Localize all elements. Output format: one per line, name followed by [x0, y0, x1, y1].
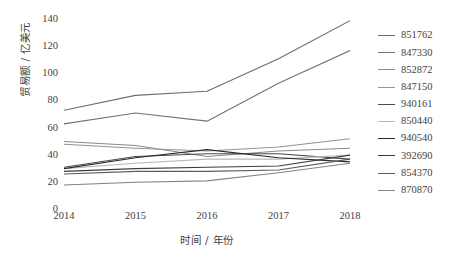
- legend-item[interactable]: 852872: [378, 61, 461, 78]
- legend-item[interactable]: 847150: [378, 79, 461, 96]
- legend-color-swatch: [378, 121, 395, 122]
- legend-item[interactable]: 940540: [378, 130, 461, 147]
- legend-color-swatch: [378, 155, 395, 156]
- y-axis-tick-label: 80: [48, 94, 59, 105]
- series-line: [64, 163, 350, 185]
- y-axis-tick-label: 60: [48, 121, 59, 132]
- y-axis-tick-labels: 020406080100120140: [26, 18, 58, 208]
- legend-item[interactable]: 851762: [378, 27, 461, 44]
- legend-color-swatch: [378, 35, 395, 36]
- legend-item-label: 940540: [401, 133, 433, 144]
- legend-color-swatch: [378, 87, 395, 88]
- x-axis-tick-label: 2017: [268, 210, 289, 221]
- x-axis-tick-label: 2016: [197, 210, 218, 221]
- series-line: [64, 51, 350, 124]
- legend-item-label: 392690: [401, 151, 433, 162]
- legend-color-swatch: [378, 190, 395, 191]
- series-lines: [64, 18, 350, 208]
- legend-item[interactable]: 870870: [378, 182, 461, 199]
- legend-item[interactable]: 392690: [378, 147, 461, 164]
- plot-area: [64, 18, 350, 208]
- legend-item-label: 850440: [401, 116, 433, 127]
- legend-item[interactable]: 940161: [378, 96, 461, 113]
- legend: 8517628473308528728471509401618504409405…: [378, 27, 461, 199]
- legend-item-label: 940161: [401, 99, 433, 110]
- y-axis-tick-label: 140: [42, 13, 58, 24]
- legend-item[interactable]: 847330: [378, 44, 461, 61]
- x-axis-tick-label: 2018: [340, 210, 361, 221]
- legend-color-swatch: [378, 104, 395, 105]
- y-axis-tick-label: 100: [42, 67, 58, 78]
- legend-item-label: 847150: [401, 82, 433, 93]
- y-axis-tick-label: 40: [48, 148, 59, 159]
- legend-color-swatch: [378, 52, 395, 53]
- legend-item-label: 847330: [401, 48, 433, 59]
- y-axis-tick-label: 120: [42, 40, 58, 51]
- x-axis-tick-label: 2015: [125, 210, 146, 221]
- legend-color-swatch: [378, 69, 395, 70]
- x-axis-title: 时间 / 年份: [64, 232, 350, 247]
- legend-item[interactable]: 850440: [378, 113, 461, 130]
- legend-item-label: 851762: [401, 30, 433, 41]
- x-axis-tick-labels: 20142015201620172018: [64, 210, 350, 226]
- legend-color-swatch: [378, 138, 395, 139]
- series-line: [64, 21, 350, 111]
- line-chart: 贸易额 / 亿美元 020406080100120140 20142015201…: [0, 0, 461, 267]
- legend-item-label: 870870: [401, 185, 433, 196]
- legend-item[interactable]: 854370: [378, 165, 461, 182]
- legend-item-label: 854370: [401, 168, 433, 179]
- legend-color-swatch: [378, 173, 395, 174]
- x-axis-tick-label: 2014: [54, 210, 75, 221]
- y-axis-tick-label: 20: [48, 175, 59, 186]
- legend-item-label: 852872: [401, 65, 433, 76]
